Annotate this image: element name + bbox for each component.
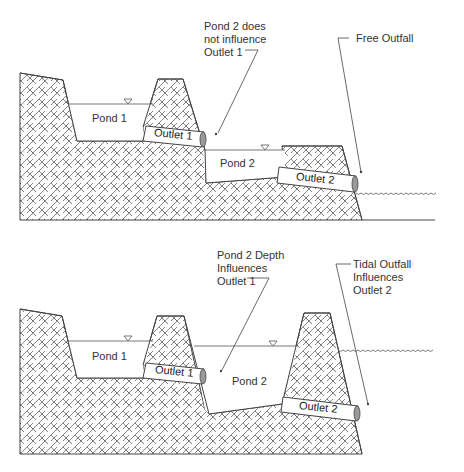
pond1-water-marker-icon bbox=[124, 99, 132, 104]
callout-pond2-depth-influence: Pond 2 Depth Influences Outlet 1 bbox=[217, 249, 284, 288]
bottom-pond1-label: Pond 1 bbox=[92, 350, 127, 362]
pond2-water-marker-icon bbox=[261, 145, 269, 150]
bottom-pond2-label: Pond 2 bbox=[232, 375, 267, 387]
callout-pond2-no-influence: Pond 2 does not influence Outlet 1 bbox=[204, 20, 266, 59]
top-tailwater-waves bbox=[356, 193, 436, 195]
top-diagram bbox=[20, 38, 436, 220]
callout1-leader bbox=[218, 50, 258, 133]
bottom-tailwater-waves bbox=[338, 350, 433, 352]
pond1-label: Pond 1 bbox=[92, 112, 127, 124]
callout-free-outfall: Free Outfall bbox=[356, 32, 413, 45]
callout-tidal-outfall: Tidal Outfall Influences Outlet 2 bbox=[353, 258, 411, 297]
bottom-pond2-water-marker-icon bbox=[269, 341, 277, 346]
diagram-canvas bbox=[0, 0, 464, 472]
bottom-pond1-water-marker-icon bbox=[124, 336, 132, 341]
pond2-label: Pond 2 bbox=[220, 157, 255, 169]
